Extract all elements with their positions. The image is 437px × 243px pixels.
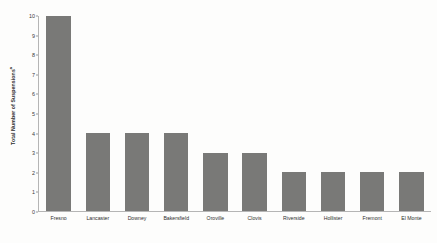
y-axis-tick-label: 6 bbox=[32, 91, 35, 97]
bar[interactable] bbox=[86, 133, 110, 211]
y-axis-tick-mark bbox=[36, 192, 38, 193]
bar-slot bbox=[274, 16, 313, 211]
y-axis-tick-label: 8 bbox=[32, 52, 35, 58]
y-axis-title-superscript: a bbox=[8, 67, 13, 69]
bar-slot bbox=[39, 16, 78, 211]
bar-series bbox=[39, 16, 431, 211]
bar-slot bbox=[196, 16, 235, 211]
x-axis-tick-label: El Monte bbox=[392, 214, 431, 226]
bar[interactable] bbox=[321, 172, 345, 211]
bar[interactable] bbox=[282, 172, 306, 211]
bar[interactable] bbox=[399, 172, 423, 211]
y-axis-tick-mark bbox=[36, 35, 38, 36]
x-axis-tick-label: Riverside bbox=[274, 214, 313, 226]
y-axis-tick-mark bbox=[36, 153, 38, 154]
bar-slot bbox=[313, 16, 352, 211]
y-axis-tick-mark bbox=[36, 212, 38, 213]
y-axis-title: Total Number of Suspensionsa bbox=[5, 0, 19, 212]
bar-slot bbox=[392, 16, 431, 211]
bar-slot bbox=[157, 16, 196, 211]
bar-slot bbox=[353, 16, 392, 211]
x-axis-tick-label: Clovis bbox=[235, 214, 274, 226]
bar-slot bbox=[117, 16, 156, 211]
bar-slot bbox=[78, 16, 117, 211]
y-axis-tick-label: 3 bbox=[32, 150, 35, 156]
x-axis-tick-label: Bakersfield bbox=[157, 214, 196, 226]
plot-area: 012345678910 bbox=[38, 16, 431, 212]
y-axis-tick-label: 2 bbox=[32, 170, 35, 176]
y-axis-tick-mark bbox=[36, 74, 38, 75]
x-axis-tick-label: Fresno bbox=[39, 214, 78, 226]
bar[interactable] bbox=[125, 133, 149, 211]
y-axis-tick-label: 0 bbox=[32, 209, 35, 215]
bar[interactable] bbox=[46, 16, 70, 211]
y-axis-tick-label: 4 bbox=[32, 131, 35, 137]
y-axis-tick-label: 9 bbox=[32, 33, 35, 39]
x-axis-tick-label: Hollister bbox=[313, 214, 352, 226]
y-axis-tick-label: 7 bbox=[32, 72, 35, 78]
y-axis-tick-label: 10 bbox=[29, 13, 35, 19]
x-axis-tick-label: Downey bbox=[117, 214, 156, 226]
x-axis-tick-label: Oroville bbox=[196, 214, 235, 226]
y-axis-tick-mark bbox=[36, 133, 38, 134]
y-axis-tick-mark bbox=[36, 94, 38, 95]
bar-chart: Total Number of Suspensionsa 01234567891… bbox=[0, 0, 437, 243]
bar[interactable] bbox=[360, 172, 384, 211]
y-axis-tick-label: 1 bbox=[32, 189, 35, 195]
x-axis-line bbox=[38, 211, 431, 212]
x-axis-tick-label: Fremont bbox=[353, 214, 392, 226]
y-axis-tick-mark bbox=[36, 172, 38, 173]
x-axis-tick-label: Lancaster bbox=[78, 214, 117, 226]
y-axis-tick-mark bbox=[36, 16, 38, 17]
y-axis-title-text: Total Number of Suspensions bbox=[10, 69, 16, 145]
bar[interactable] bbox=[242, 153, 266, 212]
bar-slot bbox=[235, 16, 274, 211]
y-axis-tick-mark bbox=[36, 55, 38, 56]
y-axis-tick-mark bbox=[36, 114, 38, 115]
bar[interactable] bbox=[164, 133, 188, 211]
bar[interactable] bbox=[203, 153, 227, 212]
y-axis-tick-label: 5 bbox=[32, 111, 35, 117]
x-axis-labels: FresnoLancasterDowneyBakersfieldOroville… bbox=[39, 214, 431, 226]
